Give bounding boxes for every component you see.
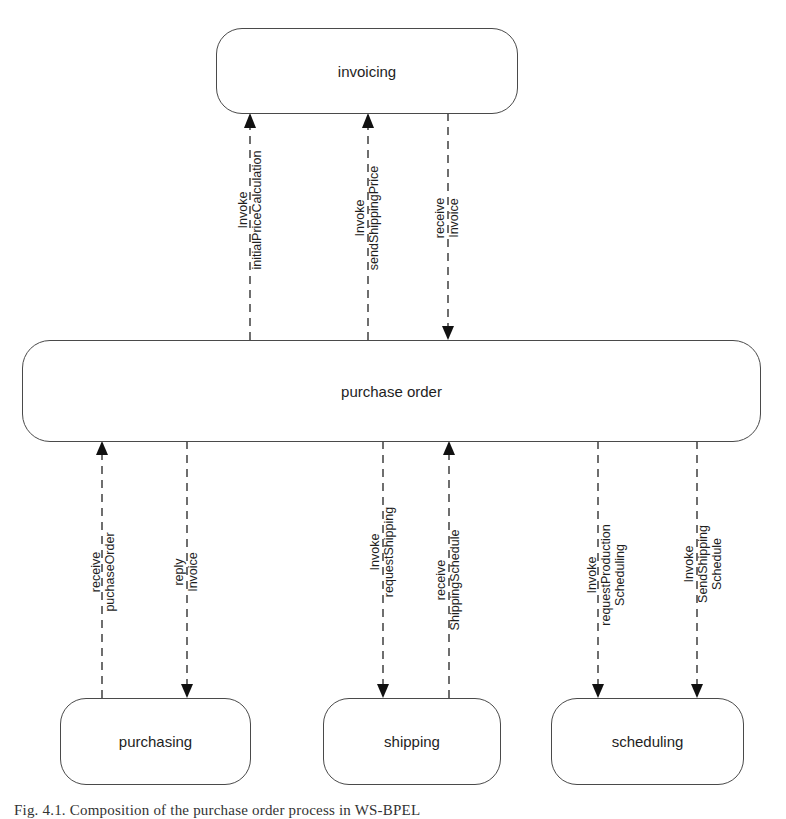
edge-label-send-shipping-schedule: Invoke SendShipping Schedule <box>682 514 724 614</box>
node-scheduling: scheduling <box>551 698 744 785</box>
edge-label-receive-puchase-order: receive puchaseOrder <box>89 512 117 632</box>
arrow-down-icon <box>377 684 389 698</box>
edge-label-reply-invoice: reply Invoice <box>172 532 200 612</box>
node-label: shipping <box>384 733 440 750</box>
arrow-up-icon <box>244 113 256 128</box>
edge-label-request-production-scheduling: Invoke requestProduction Scheduling <box>585 510 627 640</box>
arrow-up-icon <box>96 441 108 455</box>
node-purchase-order: purchase order <box>22 340 761 442</box>
edge-label-request-shipping: Invoke requestShipping <box>368 492 396 612</box>
figure-caption: Fig. 4.1. Composition of the purchase or… <box>14 802 420 819</box>
arrow-down-icon <box>442 326 454 340</box>
arrow-down-icon <box>181 684 193 698</box>
edge-label-initial-price-calculation: Invoke initialPriceCalculation <box>236 135 264 285</box>
edge-label-receive-shipping-schedule: receive ShippingSchedule <box>434 515 462 645</box>
arrow-up-icon <box>362 113 374 128</box>
node-label: invoicing <box>338 63 396 80</box>
arrow-down-icon <box>691 684 703 698</box>
node-label: scheduling <box>612 733 684 750</box>
arrow-up-icon <box>443 441 455 455</box>
node-label: purchasing <box>119 733 192 750</box>
edge-label-send-shipping-price: Invoke sendShippingPrice <box>353 148 381 288</box>
node-purchasing: purchasing <box>60 698 251 785</box>
arrow-down-icon <box>592 684 604 698</box>
node-label: purchase order <box>341 383 442 400</box>
node-shipping: shipping <box>323 698 501 785</box>
edge-label-receive-invoice: receive Invoice <box>433 173 461 263</box>
node-invoicing: invoicing <box>216 28 518 114</box>
